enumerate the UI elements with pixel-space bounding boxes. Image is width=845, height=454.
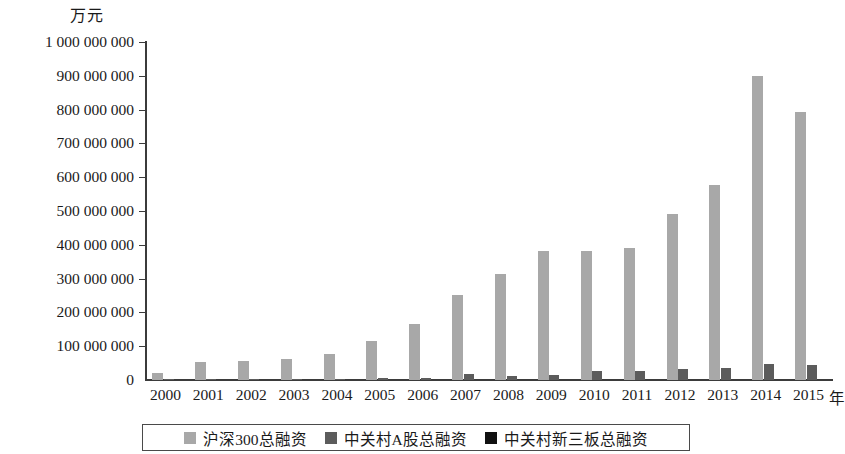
y-axis-tick-label: 200 000 000 [57, 304, 135, 320]
bar-2015-series-0 [795, 112, 806, 380]
x-axis-tick-label: 2013 [701, 386, 744, 403]
x-axis-tick-label: 2005 [358, 386, 401, 403]
bar-group [618, 42, 661, 380]
bar-group [275, 42, 318, 380]
bar-2005-series-0 [366, 341, 377, 380]
bar-group [146, 42, 189, 380]
bar-group [360, 42, 403, 380]
bar-2002-series-1 [249, 379, 259, 381]
bar-2008-series-1 [507, 376, 517, 380]
bar-group [403, 42, 446, 380]
bar-2003-series-1 [292, 379, 302, 381]
x-axis-tick-label: 2009 [530, 386, 573, 403]
bar-group [232, 42, 275, 380]
bar-2002-series-0 [238, 361, 249, 380]
bar-group [789, 42, 832, 380]
x-axis-tick-label: 2006 [401, 386, 444, 403]
bar-group [746, 42, 789, 380]
legend-label-1: 中关村A股总融资 [344, 427, 467, 449]
bar-2013-series-1 [721, 368, 731, 380]
x-axis-tick-label: 2014 [744, 386, 787, 403]
bar-2004-series-1 [335, 379, 345, 381]
x-axis-tick-label: 2001 [187, 386, 230, 403]
bar-group [489, 42, 532, 380]
chart-legend: 沪深300总融资 中关村A股总融资 中关村新三板总融资 [142, 424, 690, 451]
y-axis-tick-label: 1 000 000 000 [45, 34, 134, 50]
bar-2013-series-0 [709, 185, 720, 380]
plot-area [146, 42, 832, 380]
bar-group [661, 42, 704, 380]
x-axis-tick-label: 2008 [487, 386, 530, 403]
y-axis-tick-label: 300 000 000 [57, 271, 135, 287]
bar-2011-series-1 [635, 371, 645, 380]
y-axis-tick-label: 0 [126, 372, 134, 388]
x-axis-tick-label: 2012 [659, 386, 702, 403]
legend-swatch-icon-0 [184, 432, 196, 444]
legend-item-0[interactable]: 沪深300总融资 [184, 427, 306, 449]
legend-item-2[interactable]: 中关村新三板总融资 [485, 427, 648, 449]
bar-2008-series-0 [495, 274, 506, 380]
bar-2006-series-0 [409, 324, 420, 380]
y-axis-tick-label: 100 000 000 [57, 338, 135, 354]
x-axis-tick-label: 2011 [616, 386, 659, 403]
y-axis-tick-label: 400 000 000 [57, 237, 135, 253]
bar-2005-series-1 [378, 378, 388, 380]
bar-2006-series-1 [421, 378, 431, 380]
legend-label-0: 沪深300总融资 [203, 427, 306, 449]
bar-2014-series-1 [764, 364, 774, 380]
bar-2001-series-0 [195, 362, 206, 380]
bar-group [318, 42, 361, 380]
bar-group [703, 42, 746, 380]
y-axis-tick-label: 900 000 000 [57, 68, 135, 84]
bar-2000-series-1 [164, 379, 174, 381]
legend-swatch-icon-2 [485, 432, 497, 444]
y-axis-tick-label: 700 000 000 [57, 135, 135, 151]
bar-group [446, 42, 489, 380]
bar-2009-series-1 [549, 375, 559, 380]
y-axis-tick-label: 600 000 000 [57, 169, 135, 185]
x-axis-tick-label: 2004 [316, 386, 359, 403]
x-axis-name: 年 [829, 386, 845, 408]
bar-group [189, 42, 232, 380]
bar-2010-series-1 [592, 371, 602, 380]
bar-2007-series-0 [452, 295, 463, 380]
x-axis-tick-label: 2010 [573, 386, 616, 403]
x-axis-tick-label: 2000 [144, 386, 187, 403]
bar-2015-series-1 [807, 365, 817, 380]
x-axis-tick-label: 2002 [230, 386, 273, 403]
bar-group [532, 42, 575, 380]
bar-2004-series-0 [324, 354, 335, 380]
bar-2001-series-1 [206, 379, 216, 381]
bar-2003-series-0 [281, 359, 292, 380]
y-axis-tick-label: 800 000 000 [57, 102, 135, 118]
bar-2007-series-1 [464, 374, 474, 380]
bar-2000-series-0 [152, 373, 163, 380]
x-axis-tick-label: 2007 [444, 386, 487, 403]
y-axis-tick-label: 500 000 000 [57, 203, 135, 219]
bar-2012-series-1 [678, 369, 688, 380]
y-axis-tick-labels: 1 000 000 000900 000 000800 000 000700 0… [0, 0, 134, 454]
bar-2014-series-0 [752, 76, 763, 380]
bar-2009-series-0 [538, 251, 549, 380]
bar-2012-series-0 [667, 214, 678, 380]
bar-2011-series-0 [624, 248, 635, 380]
legend-swatch-icon-1 [325, 432, 337, 444]
bar-2010-series-0 [581, 251, 592, 380]
legend-item-1[interactable]: 中关村A股总融资 [325, 427, 467, 449]
x-axis-tick-label: 2003 [273, 386, 316, 403]
bar-group [575, 42, 618, 380]
legend-label-2: 中关村新三板总融资 [504, 427, 648, 449]
x-axis-tick-label: 2015 [787, 386, 830, 403]
